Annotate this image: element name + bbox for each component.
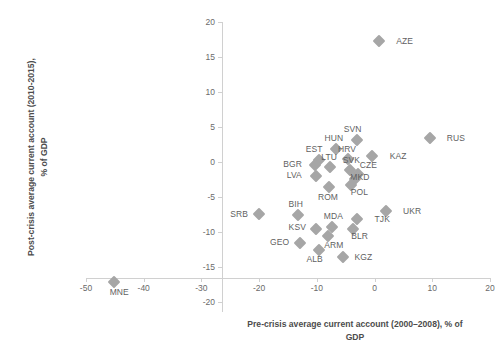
x-tick-mark: [432, 278, 433, 282]
y-axis-line: [222, 22, 223, 312]
data-point[interactable]: [253, 207, 266, 220]
data-point-label: LTU: [321, 152, 337, 162]
data-point-label: ARM: [324, 240, 343, 250]
y-tick-mark: [218, 197, 222, 198]
data-point-label: CZE: [360, 160, 377, 170]
data-point-label: SVK: [343, 155, 360, 165]
x-tick-label: -10: [311, 283, 323, 293]
y-tick-mark: [218, 57, 222, 58]
data-point-label: BLR: [351, 231, 368, 241]
x-axis-line: [86, 278, 490, 279]
data-point-label: LVA: [287, 170, 302, 180]
y-tick-mark: [218, 267, 222, 268]
x-tick-label: -30: [195, 283, 207, 293]
y-tick-label: 0: [187, 157, 215, 167]
data-point-label: EST: [306, 144, 323, 154]
data-point[interactable]: [310, 223, 323, 236]
y-tick-mark: [218, 22, 222, 23]
y-axis-title: Post-crisis average current account (201…: [25, 57, 51, 257]
y-tick-mark: [218, 232, 222, 233]
data-point-label: AZE: [396, 36, 413, 46]
data-point-label: BGR: [283, 159, 302, 169]
y-tick-label: -5: [187, 192, 215, 202]
data-point[interactable]: [424, 132, 437, 145]
data-point-label: KSV: [289, 222, 306, 232]
y-tick-label: 20: [187, 17, 215, 27]
data-point[interactable]: [372, 35, 385, 48]
y-tick-mark: [218, 92, 222, 93]
y-tick-mark: [218, 162, 222, 163]
x-tick-mark: [317, 278, 318, 282]
x-tick-label: -40: [138, 283, 150, 293]
data-point-label: HUN: [325, 133, 344, 143]
data-point-label: KGZ: [355, 252, 373, 262]
x-tick-mark: [490, 278, 491, 282]
x-tick-label: 20: [485, 283, 494, 293]
data-point-label: RUS: [447, 133, 465, 143]
data-point[interactable]: [310, 170, 323, 183]
x-tick-mark: [375, 278, 376, 282]
plot-area: -50-40-30-20-1001020 -20-15-10-505101520…: [0, 0, 500, 356]
data-point-label: MNE: [110, 287, 129, 297]
data-point-label: ALB: [306, 254, 322, 264]
data-point-label: HRV: [338, 144, 356, 154]
y-tick-mark: [218, 127, 222, 128]
data-point[interactable]: [291, 209, 304, 222]
x-tick-mark: [201, 278, 202, 282]
x-tick-mark: [259, 278, 260, 282]
scatter-chart: -50-40-30-20-1001020 -20-15-10-505101520…: [0, 0, 500, 356]
x-tick-label: 10: [428, 283, 437, 293]
x-tick-label: -20: [253, 283, 265, 293]
x-tick-label: -50: [80, 283, 92, 293]
data-point-label: GEO: [270, 237, 289, 247]
y-tick-label: 10: [187, 87, 215, 97]
data-point[interactable]: [324, 161, 337, 174]
x-tick-mark: [144, 278, 145, 282]
y-tick-label: -15: [187, 262, 215, 272]
x-tick-mark: [86, 278, 87, 282]
data-point-label: KAZ: [390, 151, 407, 161]
data-point-label: SRB: [230, 209, 248, 219]
y-tick-label: 15: [187, 52, 215, 62]
data-point[interactable]: [337, 251, 350, 264]
data-point-label: SVN: [344, 124, 362, 134]
data-point-label: UKR: [403, 206, 421, 216]
y-tick-label: 5: [187, 122, 215, 132]
data-point[interactable]: [293, 236, 306, 249]
data-point-label: TJK: [375, 214, 390, 224]
x-tick-label: 0: [372, 283, 377, 293]
data-point-label: POL: [351, 187, 368, 197]
data-point-label: BIH: [289, 199, 303, 209]
x-axis-title: Pre-crisis average current account (2000…: [240, 318, 470, 344]
y-tick-mark: [218, 302, 222, 303]
data-point-label: MDA: [324, 211, 343, 221]
data-point-label: ROM: [318, 192, 338, 202]
y-tick-label: -20: [187, 297, 215, 307]
y-tick-label: -10: [187, 227, 215, 237]
